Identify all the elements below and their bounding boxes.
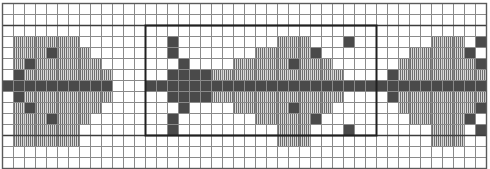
pattern-chart: Pattern Chart [0, 0, 490, 169]
pattern-grid-canvas [0, 0, 490, 169]
